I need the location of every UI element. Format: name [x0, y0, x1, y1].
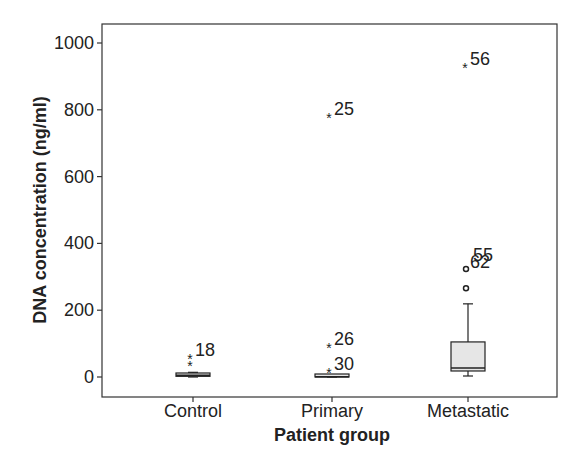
- y-tick-label: 400: [64, 233, 94, 253]
- x-tick-label: Primary: [301, 401, 363, 421]
- outlier-asterisk-icon: *: [326, 110, 332, 126]
- x-axis: ControlPrimaryMetastatic: [164, 397, 509, 421]
- x-tick-label: Control: [164, 401, 222, 421]
- y-axis: 02004006008001000: [54, 33, 102, 387]
- x-tick-label: Metastatic: [427, 401, 509, 421]
- outlier-label: 18: [195, 340, 215, 360]
- boxes: *18**25*26*30*566255: [176, 49, 493, 381]
- x-axis-title: Patient group: [274, 425, 390, 445]
- box-control: *18*: [176, 340, 215, 377]
- outlier-label: 55: [473, 245, 493, 265]
- outlier-asterisk-icon: *: [326, 365, 332, 381]
- y-tick-label: 0: [84, 367, 94, 387]
- outlier-circle-icon: [464, 286, 469, 291]
- outlier-circle-icon: [464, 267, 469, 272]
- box-metastatic: *566255: [451, 49, 493, 376]
- outlier-label: 25: [334, 99, 354, 119]
- y-axis-title: DNA concentration (ng/ml): [30, 96, 50, 323]
- boxplot-chart: 02004006008001000 ControlPrimaryMetastat…: [0, 0, 585, 468]
- y-tick-label: 600: [64, 167, 94, 187]
- outlier-label: 26: [334, 329, 354, 349]
- y-tick-label: 1000: [54, 33, 94, 53]
- outlier-asterisk-icon: *: [187, 358, 193, 374]
- outlier-asterisk-icon: *: [462, 60, 468, 76]
- outlier-label: 56: [470, 49, 490, 69]
- box-primary: *25*26*30: [315, 99, 354, 381]
- y-tick-label: 200: [64, 300, 94, 320]
- y-tick-label: 800: [64, 100, 94, 120]
- outlier-label: 30: [334, 354, 354, 374]
- outlier-asterisk-icon: *: [326, 340, 332, 356]
- box-iqr: [451, 342, 485, 371]
